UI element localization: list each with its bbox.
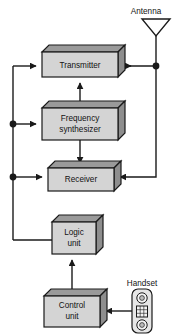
antenna-symbol bbox=[142, 19, 170, 36]
keypad-grid-icon bbox=[137, 306, 148, 317]
handset-symbol[interactable] bbox=[132, 289, 152, 333]
speaker-circle-inner-icon bbox=[140, 296, 145, 301]
receiver-top-face bbox=[48, 161, 121, 168]
microphone-circle-inner-icon bbox=[140, 323, 145, 328]
control-side-face bbox=[100, 289, 107, 327]
block-transmitter[interactable]: Transmitter bbox=[42, 45, 125, 77]
transmitter-label: Transmitter bbox=[59, 61, 100, 70]
synthesizer-label-line1: Frequency bbox=[61, 114, 101, 123]
logic-label-line1: Logic bbox=[64, 228, 84, 237]
synthesizer-label-line2: synthesizer bbox=[59, 125, 101, 134]
junction-left-upper-dot bbox=[10, 121, 17, 128]
handset-label: Handset bbox=[127, 279, 158, 288]
receiver-label: Receiver bbox=[65, 175, 98, 184]
block-diagram: Antenna Transmitter Frequency synthesize… bbox=[0, 0, 174, 334]
junction-left-lower-dot bbox=[10, 174, 17, 181]
block-receiver[interactable]: Receiver bbox=[48, 161, 121, 191]
transmitter-top-face bbox=[42, 45, 125, 52]
block-control-unit[interactable]: Control unit bbox=[44, 289, 107, 327]
logic-side-face bbox=[96, 215, 103, 254]
synthesizer-top-face bbox=[42, 101, 125, 108]
junction-antenna-feed-dot bbox=[153, 63, 160, 70]
control-label-line1: Control bbox=[59, 301, 86, 310]
block-frequency-synthesizer[interactable]: Frequency synthesizer bbox=[42, 101, 125, 140]
control-label-line2: unit bbox=[65, 312, 79, 321]
logic-top-face bbox=[52, 215, 103, 222]
synthesizer-side-face bbox=[118, 101, 125, 140]
block-logic-unit[interactable]: Logic unit bbox=[52, 215, 103, 254]
antenna-label: Antenna bbox=[131, 7, 162, 16]
diagram-canvas: Antenna Transmitter Frequency synthesize… bbox=[0, 0, 174, 334]
logic-label-line2: unit bbox=[67, 239, 81, 248]
control-top-face bbox=[44, 289, 107, 296]
